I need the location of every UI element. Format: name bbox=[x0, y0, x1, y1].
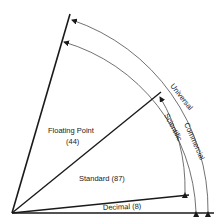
standard-boundary-line bbox=[12, 92, 161, 213]
universal-label: Universal bbox=[168, 82, 195, 112]
floating-point-boundary-line bbox=[12, 14, 70, 213]
universal-arc bbox=[72, 20, 208, 212]
floating-point-label: Floating Point bbox=[48, 126, 95, 135]
floating-point-count: (44) bbox=[66, 137, 80, 146]
decimal-boundary-line bbox=[12, 195, 189, 213]
diagram-canvas: Floating Point (44) Standard (87) Decima… bbox=[0, 0, 223, 222]
standard-label: Standard (87) bbox=[79, 174, 125, 183]
decimal-label: Decimal (8) bbox=[103, 202, 142, 212]
commercial-label: Commercial bbox=[182, 121, 207, 162]
scientific-label: Scientific bbox=[162, 112, 184, 143]
